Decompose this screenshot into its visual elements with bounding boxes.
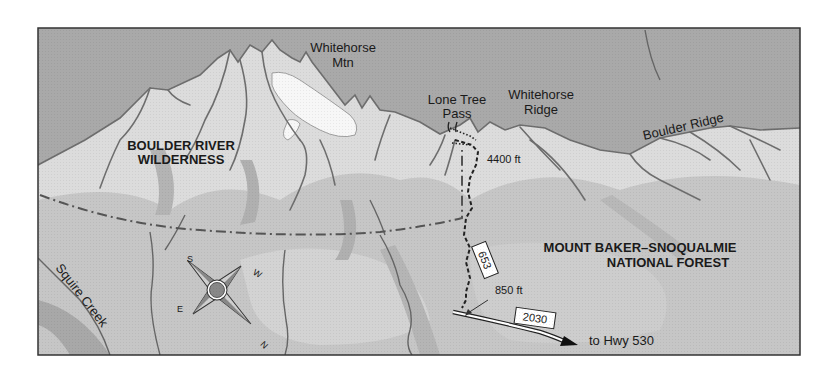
- trail-map: 653 2030 S W E N Whitehorse Mtn Lone Tre…: [0, 0, 836, 377]
